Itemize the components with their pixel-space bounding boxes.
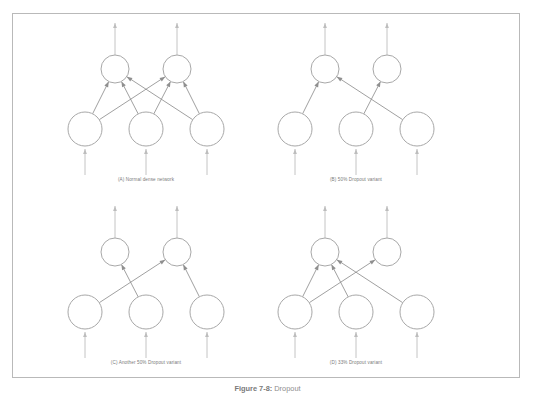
edge-arrowhead-4 <box>127 77 133 82</box>
output-arrowhead-0 <box>113 23 117 28</box>
figure-caption-text: Dropout <box>274 384 300 393</box>
input-arrowhead-0 <box>293 149 297 154</box>
panel-c-caption: (C) Another 50% Dropout variant <box>51 360 241 365</box>
edge-1 <box>99 77 165 120</box>
input-neuron-0 <box>278 112 312 146</box>
input-neuron-2 <box>190 295 224 329</box>
input-arrowhead-2 <box>415 332 419 337</box>
panel-c-network-diagram <box>51 200 241 360</box>
input-neuron-2 <box>400 112 434 146</box>
edge-arrowhead-2 <box>183 265 187 271</box>
input-neuron-0 <box>278 295 312 329</box>
panel-a-network-diagram <box>51 17 241 177</box>
edge-arrowhead-1 <box>121 264 125 270</box>
input-arrowhead-0 <box>83 332 87 337</box>
output-neuron-1 <box>373 238 401 266</box>
output-arrowhead-1 <box>175 206 179 211</box>
output-arrowhead-0 <box>113 206 117 211</box>
edge-arrowhead-1 <box>376 81 380 87</box>
output-neuron-1 <box>163 238 191 266</box>
edge-arrowhead-0 <box>104 82 108 88</box>
input-arrowhead-1 <box>144 332 148 337</box>
input-neuron-1 <box>129 112 163 146</box>
input-neuron-2 <box>400 295 434 329</box>
input-arrowhead-1 <box>354 332 358 337</box>
input-neuron-0 <box>68 112 102 146</box>
edge-arrowhead-2 <box>331 264 335 270</box>
edge-arrowhead-1 <box>160 77 166 82</box>
edge-3 <box>337 260 403 303</box>
input-neuron-0 <box>68 295 102 329</box>
edge-arrowhead-2 <box>337 77 343 82</box>
input-arrowhead-1 <box>144 149 148 154</box>
input-arrowhead-2 <box>205 332 209 337</box>
edge-2 <box>337 77 403 120</box>
input-arrowhead-0 <box>293 332 297 337</box>
output-neuron-0 <box>311 55 339 83</box>
input-arrowhead-2 <box>205 149 209 154</box>
input-neuron-2 <box>190 112 224 146</box>
input-neuron-1 <box>129 295 163 329</box>
panel-grid: (A) Normal dense network (B) 50% Dropout… <box>13 14 519 377</box>
output-arrowhead-1 <box>385 23 389 28</box>
input-neuron-1 <box>339 295 373 329</box>
panel-a: (A) Normal dense network <box>51 17 241 197</box>
panel-b: (B) 50% Dropout variant <box>261 17 451 197</box>
edge-arrowhead-0 <box>314 265 318 271</box>
edge-arrowhead-3 <box>166 81 170 87</box>
output-neuron-1 <box>373 55 401 83</box>
edge-arrowhead-0 <box>314 82 318 88</box>
input-neuron-1 <box>339 112 373 146</box>
panel-d-network-diagram <box>261 200 451 360</box>
panel-b-caption: (B) 50% Dropout variant <box>261 177 451 182</box>
edge-arrowhead-1 <box>370 260 376 265</box>
output-arrowhead-1 <box>385 206 389 211</box>
output-neuron-0 <box>311 238 339 266</box>
edge-arrowhead-3 <box>337 260 343 265</box>
edge-arrowhead-2 <box>121 81 125 87</box>
output-arrowhead-0 <box>323 23 327 28</box>
figure-caption: Figure 7-8: Dropout <box>0 382 535 396</box>
panel-d-caption: (D) 33% Dropout variant <box>261 360 451 365</box>
edge-arrowhead-5 <box>183 82 187 88</box>
input-arrowhead-2 <box>415 149 419 154</box>
edge-1 <box>309 260 375 303</box>
output-neuron-0 <box>101 238 129 266</box>
figure-frame: (A) Normal dense network (B) 50% Dropout… <box>12 13 520 378</box>
input-arrowhead-0 <box>83 149 87 154</box>
edge-4 <box>127 77 193 120</box>
panel-c: (C) Another 50% Dropout variant <box>51 200 241 380</box>
output-neuron-0 <box>101 55 129 83</box>
figure-caption-label: Figure 7-8: <box>234 384 272 393</box>
output-neuron-1 <box>163 55 191 83</box>
edge-0 <box>99 260 165 303</box>
input-arrowhead-1 <box>354 149 358 154</box>
panel-a-caption: (A) Normal dense network <box>51 177 241 182</box>
output-arrowhead-0 <box>323 206 327 211</box>
edge-arrowhead-0 <box>160 260 166 265</box>
panel-d: (D) 33% Dropout variant <box>261 200 451 380</box>
panel-b-network-diagram <box>261 17 451 177</box>
output-arrowhead-1 <box>175 23 179 28</box>
